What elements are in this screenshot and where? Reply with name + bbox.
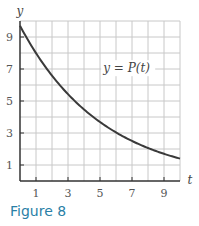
y-tick-label: 1 <box>6 159 13 172</box>
curve-label: y = P(t) <box>102 61 150 75</box>
x-axis-label: t <box>188 173 193 187</box>
figure-caption: Figure 8 <box>10 203 66 219</box>
y-axis-label: y <box>16 4 24 18</box>
x-tick-label: 9 <box>161 187 168 200</box>
y-tick-label: 9 <box>6 31 13 44</box>
y-tick-label: 5 <box>6 95 13 108</box>
y-tick-label: 7 <box>6 63 13 76</box>
x-tick-label: 1 <box>33 187 40 200</box>
chart: 1357913579tyy = P(t) <box>0 0 199 200</box>
x-tick-label: 7 <box>129 187 136 200</box>
x-tick-label: 5 <box>97 187 104 200</box>
y-tick-label: 3 <box>6 127 13 140</box>
x-tick-label: 3 <box>65 187 72 200</box>
